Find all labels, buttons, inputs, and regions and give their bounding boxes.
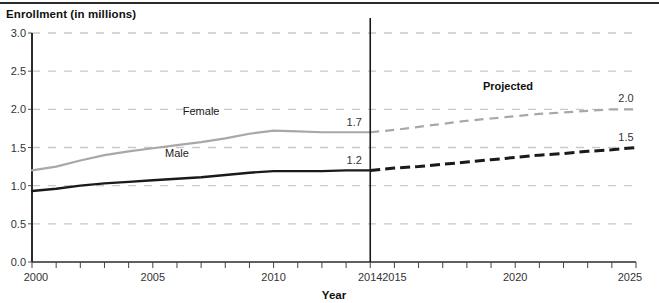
plot-area: 0.00.51.01.52.02.53.0 200020052010201420… — [0, 0, 659, 303]
y-axis-ticks-group: 0.00.51.01.52.02.53.0 — [11, 27, 32, 268]
series-line-actual-female — [32, 131, 370, 171]
x-axis-ticks-group: 2000200520102014201520202025Year — [24, 262, 642, 301]
projected-annotation: Projected — [483, 80, 533, 92]
y-axis-tick-label: 2.5 — [11, 65, 26, 77]
series-line-actual-male — [32, 170, 370, 191]
y-axis-tick-label: 2.0 — [11, 103, 26, 115]
series-lines-group — [32, 109, 636, 191]
value-label-female-2014: 1.7 — [347, 116, 362, 128]
annotations-group: Female1.72.0Male1.21.5Projected — [165, 18, 634, 262]
x-axis-tick-label: 2014 — [358, 271, 382, 283]
y-axis-tick-label: 0.5 — [11, 218, 26, 230]
y-axis-tick-label: 1.5 — [11, 142, 26, 154]
x-axis-tick-label: 2005 — [141, 271, 165, 283]
series-line-projected-male — [370, 148, 636, 171]
x-axis-tick-label: 2000 — [24, 271, 48, 283]
x-axis-tick-label: 2020 — [503, 271, 527, 283]
value-label-female-2025: 2.0 — [618, 92, 633, 104]
x-axis-tick-label: 2025 — [618, 271, 642, 283]
x-axis-tick-label: 2010 — [261, 271, 285, 283]
series-label-female: Female — [183, 105, 220, 117]
value-label-male-2025: 1.5 — [618, 131, 633, 143]
value-label-male-2014: 1.2 — [347, 154, 362, 166]
y-axis-tick-label: 1.0 — [11, 180, 26, 192]
series-line-projected-female — [370, 109, 636, 132]
y-axis-tick-label: 3.0 — [11, 27, 26, 39]
enrollment-chart: Enrollment (in millions) 0.00.51.01.52.0… — [0, 0, 659, 303]
x-axis-tick-label: 2015 — [382, 271, 406, 283]
series-label-male: Male — [165, 147, 189, 159]
y-axis-tick-label: 0.0 — [11, 256, 26, 268]
x-axis-title: Year — [322, 289, 347, 301]
gridlines-group — [32, 33, 638, 224]
